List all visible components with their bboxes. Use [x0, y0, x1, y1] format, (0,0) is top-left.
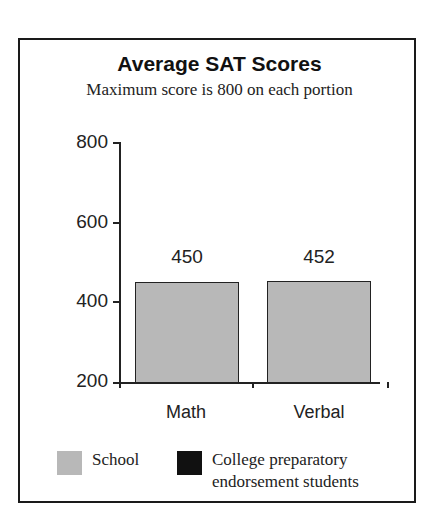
data-label-math: 450: [135, 246, 239, 268]
y-tick-200: 200: [48, 370, 108, 392]
legend-label-college-2: endorsement students: [212, 471, 359, 493]
data-label-verbal: 452: [267, 246, 371, 268]
legend-label-college-1: College preparatory: [212, 449, 347, 471]
legend-swatch-school: [57, 451, 82, 475]
y-tick-mark: [113, 142, 120, 144]
x-label-verbal: Verbal: [253, 402, 385, 423]
y-tick-800: 800: [48, 131, 108, 153]
y-tick-400: 400: [48, 290, 108, 312]
chart-title: Average SAT Scores: [0, 52, 439, 76]
x-label-math: Math: [120, 402, 252, 423]
x-axis: [115, 382, 380, 384]
bar-math-school: [135, 282, 239, 382]
x-tick-mark: [252, 382, 254, 388]
y-axis: [119, 142, 121, 384]
chart-subtitle: Maximum score is 800 on each portion: [0, 80, 439, 100]
legend-label-school: School: [92, 449, 139, 471]
x-tick-mark: [119, 382, 121, 388]
legend-swatch-college: [177, 451, 202, 475]
x-tick-mark: [387, 382, 389, 388]
bar-verbal-school: [267, 281, 371, 382]
y-tick-mark: [113, 222, 120, 224]
y-tick-mark: [113, 301, 120, 303]
chart-frame: [18, 38, 416, 503]
y-tick-600: 600: [48, 211, 108, 233]
